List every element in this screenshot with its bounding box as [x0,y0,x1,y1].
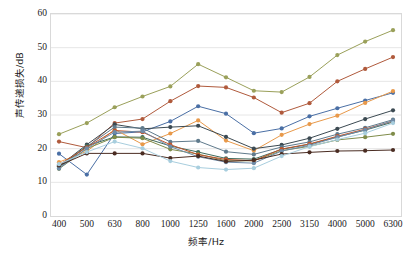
data-point [224,85,228,89]
data-point [196,124,200,128]
x-tick-label: 6300 [384,220,403,230]
data-point [391,108,395,112]
data-point [252,89,256,93]
x-axis-title: 频率/Hz [0,234,412,248]
data-point [280,154,284,158]
x-tick-label: 1250 [189,220,208,230]
data-point [168,159,172,163]
data-point [168,131,172,135]
data-point [168,99,172,103]
data-point [391,148,395,152]
data-point [168,119,172,123]
data-point [113,130,117,134]
data-point [280,90,284,94]
data-point [363,101,367,105]
x-tick-label: 500 [80,220,94,230]
data-point [196,118,200,122]
data-point [85,146,89,150]
data-point [335,149,339,153]
data-point [252,166,256,170]
data-point [335,106,339,110]
data-point [140,129,144,133]
data-point [168,145,172,149]
data-point [168,84,172,88]
data-point [280,133,284,137]
data-point [196,139,200,143]
data-point [363,131,367,135]
chart-figure: 声传递损失/dB 0102030405060 40050063080010001… [0,0,412,261]
data-point [280,126,284,130]
data-point [335,53,339,57]
data-point [57,152,61,156]
data-point [224,75,228,79]
y-tick-label: 10 [21,177,47,187]
data-point [113,105,117,109]
data-point [224,159,228,163]
x-tick-label: 3150 [300,220,319,230]
x-tick-label: 800 [135,220,149,230]
data-point [363,135,367,139]
x-tick-label: 5000 [356,220,375,230]
data-point [140,142,144,146]
x-axis-tick-labels: 4005006308001000125016002000250031504000… [50,220,402,234]
data-point [224,112,228,116]
y-tick-label: 50 [21,43,47,53]
x-tick-label: 4000 [328,220,347,230]
data-point [168,125,172,129]
data-point [391,121,395,125]
data-point [196,104,200,108]
x-tick-label: 1600 [217,220,236,230]
series-S1 [57,28,395,136]
data-point [113,135,117,139]
data-point [224,167,228,171]
data-point [252,158,256,162]
x-tick-label: 630 [108,220,122,230]
data-point [224,150,228,154]
series-lines [51,14,401,216]
data-point [307,114,311,118]
data-point [391,28,395,32]
data-point [140,146,144,150]
data-point [335,79,339,83]
data-point [335,127,339,131]
data-point [391,132,395,136]
data-point [307,136,311,140]
data-point [252,131,256,135]
data-point [113,139,117,143]
x-tick-label: 400 [52,220,66,230]
data-point [85,172,89,176]
data-point [85,121,89,125]
data-point [57,162,61,166]
data-point [57,132,61,136]
data-point [307,101,311,105]
data-point [140,94,144,98]
data-point [224,135,228,139]
y-tick-label: 60 [21,9,47,19]
data-point [196,165,200,169]
data-point [252,147,256,151]
data-point [252,152,256,156]
data-point [113,151,117,155]
data-point [391,55,395,59]
data-point [363,149,367,153]
data-point [363,40,367,44]
data-point [307,145,311,149]
data-point [57,139,61,143]
data-point [307,150,311,154]
x-tick-label: 2500 [272,220,291,230]
data-point [335,114,339,118]
data-point [196,84,200,88]
data-point [307,75,311,79]
x-tick-label: 1000 [161,220,180,230]
y-tick-label: 20 [21,144,47,154]
data-point [140,151,144,155]
data-point [85,150,89,154]
data-point [196,62,200,66]
data-point [196,154,200,158]
data-point [280,111,284,115]
data-point [363,117,367,121]
data-point [140,136,144,140]
data-point [252,95,256,99]
plot-area [50,13,402,217]
data-point [363,67,367,71]
